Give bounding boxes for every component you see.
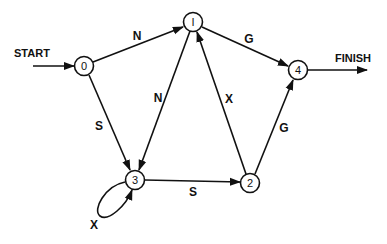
node-4-label: 4 [295, 64, 301, 76]
edge-label-0-3: S [95, 119, 103, 133]
node-0-label: 0 [81, 60, 87, 72]
edge-1-to-3 [139, 31, 190, 170]
node-1: I [184, 13, 203, 32]
edge-label-2-1: X [225, 92, 233, 106]
node-0: 0 [75, 57, 94, 76]
start-label: START [14, 47, 50, 59]
edge-label-2-4: G [279, 121, 288, 135]
edge-2-to-1 [197, 32, 246, 174]
finish-label: FINISH [335, 52, 371, 64]
node-3: 3 [126, 171, 145, 190]
edge-label-3-2: S [189, 185, 197, 199]
state-diagram: START FINISH N S N G X G S X 0 [0, 0, 387, 244]
edge-label-1-4: G [244, 32, 253, 46]
node-2-label: 2 [247, 177, 253, 189]
node-2: 2 [241, 174, 260, 193]
edge-label-0-1: N [133, 29, 142, 43]
node-3-label: 3 [132, 174, 138, 186]
edge-label-1-3: N [154, 91, 163, 105]
node-1-label: I [191, 16, 194, 28]
edge-3-to-2 [145, 180, 240, 182]
node-4: 4 [289, 61, 308, 80]
edge-3-self-loop [98, 182, 132, 217]
edge-label-3-3: X [90, 218, 98, 232]
